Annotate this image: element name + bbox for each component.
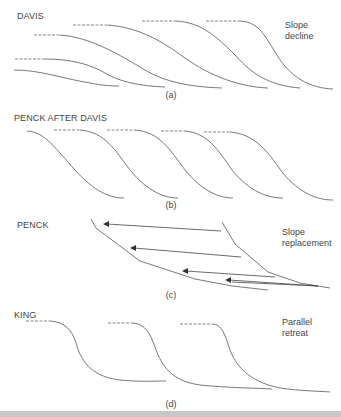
panel-caption-b: (b) [156,200,186,210]
panel-penck: PENCK Slope replacement (c) [0,210,341,305]
bottom-divider-bar [0,411,341,417]
king-parallel-retreat-diagram [0,305,341,411]
panel-caption-c: (c) [156,290,186,300]
panel-caption-a: (a) [156,90,186,100]
panel-penck-after-davis: PENCK AFTER DAVIS (b) [0,100,341,210]
panel-caption-d: (d) [156,399,186,409]
panel-davis: DAVIS Slope decline (a) [0,0,341,100]
arrowhead-icon [103,221,109,227]
arrowhead-icon [182,268,188,274]
panel-king: KING Parallel retreat (d) [0,305,341,411]
penck-after-davis-profiles-diagram [0,100,341,210]
davis-profiles-diagram [0,0,341,100]
arrowhead-icon [130,245,136,251]
arrowhead-icon [225,277,231,283]
